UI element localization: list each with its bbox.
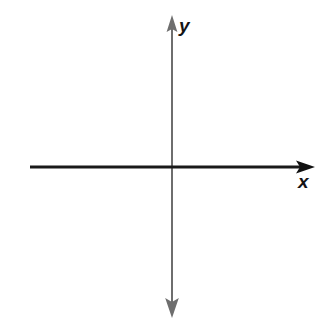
coordinate-axes-figure: y x [0,0,334,328]
x-axis-label: x [298,172,309,191]
y-axis-label: y [179,16,190,35]
axes-canvas [0,0,334,328]
